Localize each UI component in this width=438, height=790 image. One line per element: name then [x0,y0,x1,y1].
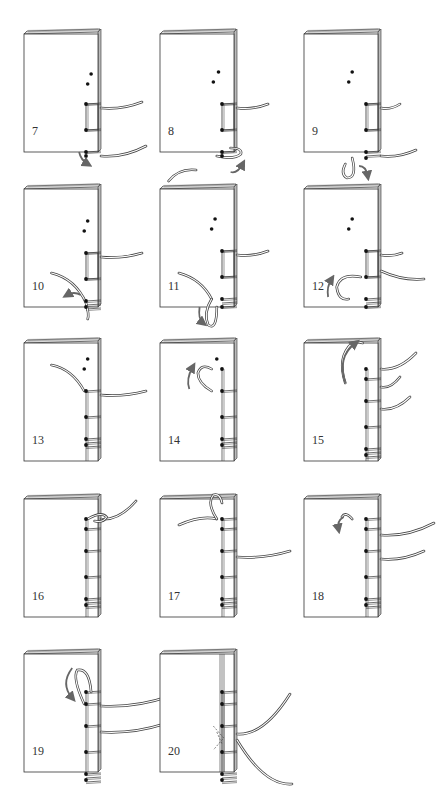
sewing-hole [82,229,86,233]
book-spine-edge [98,494,101,617]
stitched-hole [364,275,368,279]
sewing-hole [89,72,93,76]
stitched-hole [220,443,224,447]
sewing-hole [210,227,214,231]
book-top-edge [24,184,100,189]
stitched-hole [220,367,224,371]
book-illustration [14,20,160,180]
step-number: 17 [168,589,180,604]
stitched-hole [364,367,368,371]
stitched-hole [84,724,88,728]
stitched-hole [84,154,88,158]
stitched-hole [220,102,224,106]
stitched-hole [364,297,368,301]
book-illustration [150,485,296,645]
stitched-hole [364,128,368,132]
step-number: 19 [32,744,44,759]
book-top-edge [160,649,236,654]
stitched-hole [84,443,88,447]
stitched-hole [220,702,224,706]
stitched-hole [364,399,368,403]
thread-end [237,251,268,256]
stitched-hole [364,447,368,451]
book-illustration [14,640,160,790]
stitched-hole [364,549,368,553]
step-panel-8: 8 [150,20,296,175]
stitched-hole [84,277,88,281]
book-illustration [294,485,438,645]
book-top-edge [160,184,236,189]
book-illustration [150,175,296,335]
book-top-edge [24,338,100,343]
stitched-hole [364,249,368,253]
stitched-hole [220,575,224,579]
stitched-hole [84,517,88,521]
stitched-hole [84,128,88,132]
book-illustration [150,20,296,180]
stitched-hole [364,305,368,309]
thread-end [237,740,292,784]
stitched-hole [84,772,88,776]
book-spine-edge [98,649,101,772]
step-panel-20: 20 [150,640,296,790]
step-panel-17: 17 [150,485,296,640]
book-illustration [150,329,296,489]
stitched-hole [220,778,224,782]
stitched-hole [364,425,368,429]
sewing-hole [350,217,354,221]
thread-end [381,397,410,409]
stitched-hole [84,150,88,154]
step-number: 20 [168,744,180,759]
stitched-hole [84,305,88,309]
thread-end [381,353,416,369]
step-number: 12 [312,279,324,294]
sewing-hole [86,219,90,223]
book-top-edge [304,184,380,189]
book-top-edge [160,494,236,499]
book-spine-edge [234,338,237,461]
step-number: 11 [168,279,180,294]
thread-end [381,104,400,109]
book-spine-edge [234,494,237,617]
stitched-hole [84,527,88,531]
stitch-wrap [222,781,237,782]
stitched-hole [220,415,224,419]
thread-end [237,104,268,109]
sewing-hole [86,82,90,86]
stitched-hole [220,517,224,521]
book-illustration [14,485,160,645]
step-panel-19: 19 [14,640,160,790]
step-panel-18: 18 [294,485,438,640]
direction-arrow-icon [231,164,243,172]
thread-end [101,391,146,396]
book-top-edge [160,29,236,34]
thread-end [237,551,290,557]
stitched-hole [220,389,224,393]
book-top-edge [24,494,100,499]
stitched-hole [220,603,224,607]
stitch-wrap [86,777,101,778]
book-illustration [294,20,438,180]
book-top-edge [304,494,380,499]
step-number: 7 [32,124,38,139]
stitched-hole [220,750,224,754]
stitched-hole [220,154,224,158]
thread-end [101,146,146,156]
stitched-hole [364,575,368,579]
stitched-hole [84,575,88,579]
book-spine-edge [98,29,101,152]
sewing-hole [212,80,216,84]
thread-end [237,694,290,734]
thread-end [381,523,434,535]
book-illustration [294,175,438,335]
step-panel-10: 10 [14,175,160,330]
stitched-hole [220,249,224,253]
stitch-wrap [86,773,101,774]
stitched-hole [364,453,368,457]
stitched-hole [220,549,224,553]
sewing-hole [82,367,86,371]
thread-end [381,253,402,256]
book-top-edge [304,338,380,343]
stitched-hole [84,389,88,393]
stitched-hole [84,603,88,607]
